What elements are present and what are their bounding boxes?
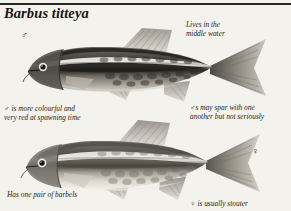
annotation-barbels: Has one pair of barbels bbox=[7, 190, 77, 199]
female-barbel bbox=[21, 169, 28, 178]
page-title: Barbus titteya bbox=[4, 5, 89, 22]
male-symbol-marker: ♂ bbox=[21, 30, 28, 40]
annotation-male-sparring: ♂s may spar with one another but not ser… bbox=[190, 103, 264, 122]
female-caudal-fin bbox=[206, 134, 260, 192]
plate-page: Barbus titteya bbox=[0, 0, 291, 211]
male-caudal-fin bbox=[210, 39, 266, 96]
annotation-female-stouter: ♀ is usually stouter bbox=[190, 199, 248, 208]
male-barbel bbox=[23, 73, 30, 82]
annotation-male-colour: ♂ is more colourful and very red at spaw… bbox=[4, 104, 81, 123]
female-symbol-marker: ♀ bbox=[252, 146, 259, 156]
male-fish-illustration bbox=[14, 26, 276, 106]
annotation-lives-middle-water: Lives in the middle water bbox=[186, 20, 225, 39]
